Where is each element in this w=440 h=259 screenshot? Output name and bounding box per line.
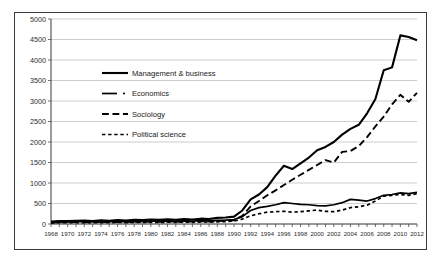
x-axis-tick-label: 1986 <box>194 230 208 237</box>
legend-label: Sociology <box>132 110 165 119</box>
legend-item: Sociology <box>102 110 165 119</box>
legend-label: Management & business <box>132 69 216 78</box>
chart-container: 0500100015002000250030003500400045005000… <box>0 0 440 259</box>
x-axis-tick-label: 2000 <box>310 230 324 237</box>
x-axis-tick-label: 1976 <box>111 230 125 237</box>
y-axis-tick-label: 2500 <box>30 117 46 126</box>
x-axis-tick-label: 1984 <box>177 230 191 237</box>
x-axis-tick-label: 2012 <box>410 230 424 237</box>
x-axis-tick-label: 1970 <box>61 230 75 237</box>
legend-label: Political science <box>132 130 186 139</box>
x-axis-tick-label: 1990 <box>227 230 241 237</box>
chart-legend: Management & businessEconomicsSociologyP… <box>102 69 216 140</box>
y-axis-tick-label: 4000 <box>30 56 46 65</box>
x-axis-tick-label: 1968 <box>44 230 58 237</box>
legend-item: Management & business <box>102 69 216 78</box>
x-axis-tick-label: 1998 <box>294 230 308 237</box>
x-axis-tick-label: 1978 <box>127 230 141 237</box>
legend-label: Economics <box>132 89 169 98</box>
y-axis-tick-label: 5000 <box>30 15 46 24</box>
y-axis-tick-label: 3500 <box>30 76 46 85</box>
x-axis-tick-label: 2006 <box>360 230 374 237</box>
legend-item: Political science <box>102 130 186 139</box>
chart-frame: 0500100015002000250030003500400045005000… <box>14 12 427 250</box>
x-axis-tick-label: 1972 <box>77 230 91 237</box>
line-chart-plot: 0500100015002000250030003500400045005000… <box>15 13 425 248</box>
legend-item: Economics <box>102 89 169 98</box>
series-line-political-science <box>51 194 417 223</box>
y-axis-tick-label: 2000 <box>30 138 46 147</box>
y-axis-tick-label: 500 <box>34 199 46 208</box>
series-line-economics <box>51 192 417 222</box>
y-axis-tick-label: 3000 <box>30 97 46 106</box>
y-axis-tick-label: 4500 <box>30 35 46 44</box>
x-axis-tick-label: 2002 <box>327 230 341 237</box>
y-axis-tick-label: 1000 <box>30 179 46 188</box>
x-axis-tick-label: 1992 <box>244 230 258 237</box>
x-axis-tick-label: 2008 <box>377 230 391 237</box>
y-axis-tick-label: 0 <box>42 220 46 229</box>
legend-swatch-dot <box>123 92 125 94</box>
x-axis-tick-label: 1980 <box>144 230 158 237</box>
x-axis-tick-label: 1994 <box>260 230 274 237</box>
y-axis-tick-label: 1500 <box>30 158 46 167</box>
x-axis-tick-label: 2004 <box>344 230 358 237</box>
x-axis-tick-label: 1974 <box>94 230 108 237</box>
x-axis-tick-label: 1988 <box>211 230 225 237</box>
series-line-management-business <box>51 35 417 221</box>
series-line-sociology <box>51 93 417 223</box>
x-axis-tick-label: 2010 <box>394 230 408 237</box>
x-axis-tick-label: 1996 <box>277 230 291 237</box>
x-axis-tick-label: 1982 <box>161 230 175 237</box>
